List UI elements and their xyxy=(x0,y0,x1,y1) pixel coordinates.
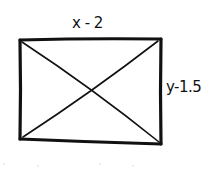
rectangle-left-edge xyxy=(20,40,21,139)
rectangle-bottom-edge xyxy=(20,139,161,144)
top-edge-label: x - 2 xyxy=(72,16,103,31)
rectangle-right-edge xyxy=(161,39,162,144)
right-edge-label: y-1.5 xyxy=(166,80,201,95)
rectangle-top-edge xyxy=(20,39,161,40)
